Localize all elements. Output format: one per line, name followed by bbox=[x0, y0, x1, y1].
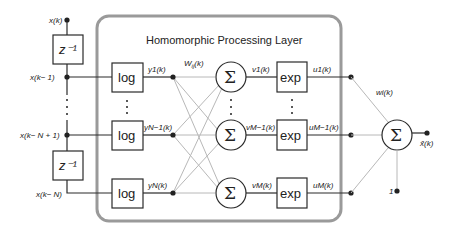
delay-label-1: z⁻¹ bbox=[58, 42, 78, 57]
log-label-1: log bbox=[118, 70, 135, 85]
output-node bbox=[424, 130, 429, 135]
sum-symbol-1: Σ bbox=[224, 67, 236, 87]
label-u1: u1(k) bbox=[313, 65, 332, 74]
input-node-xk-1 bbox=[64, 74, 69, 79]
label-v1: v1(k) bbox=[252, 65, 270, 74]
label-wij: Wij(k) bbox=[184, 59, 204, 69]
label-xk-n1: x(k− N + 1) bbox=[19, 131, 60, 140]
sum-symbol-3: Σ bbox=[224, 183, 236, 203]
exp-label-3: exp bbox=[280, 186, 301, 201]
delay-label-2: z⁻¹ bbox=[58, 158, 78, 173]
label-yn-1: yN−1(k) bbox=[143, 123, 173, 132]
label-wi: wi(k) bbox=[376, 88, 393, 97]
label-xk-n: x(k− N) bbox=[35, 190, 62, 199]
input-node-xk bbox=[64, 17, 69, 22]
label-bias: 1 bbox=[389, 187, 393, 196]
homomorphic-network-diagram: Homomorphic Processing Layer x(k) x(k− 1… bbox=[0, 0, 451, 234]
log-label-2: log bbox=[118, 128, 135, 143]
label-um-1: uM−1(k) bbox=[309, 123, 339, 132]
panel-title: Homomorphic Processing Layer bbox=[146, 34, 303, 46]
exp-label-1: exp bbox=[280, 70, 301, 85]
output-sum-symbol: Σ bbox=[390, 125, 402, 145]
input-node-xk-n1 bbox=[64, 132, 69, 137]
label-vm: vM(k) bbox=[252, 181, 272, 190]
label-xk: x(k) bbox=[48, 16, 63, 25]
label-vm-1: vM−1(k) bbox=[246, 123, 275, 132]
label-output: x̂(k) bbox=[419, 139, 434, 148]
weight-mesh bbox=[173, 77, 222, 193]
label-yn: yN(k) bbox=[147, 181, 167, 190]
bias-node bbox=[394, 188, 399, 193]
exp-label-2: exp bbox=[280, 128, 301, 143]
label-y1: y1(k) bbox=[147, 65, 166, 74]
label-um: uM(k) bbox=[313, 181, 334, 190]
log-label-3: log bbox=[118, 186, 135, 201]
label-xk-1: x(k− 1) bbox=[29, 73, 55, 82]
sum-symbol-2: Σ bbox=[224, 125, 236, 145]
